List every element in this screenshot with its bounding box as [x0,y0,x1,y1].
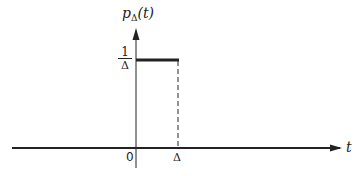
x-axis-label: t [346,140,352,154]
tick-origin-label: 0 [126,151,134,163]
p-axis-arrowhead-icon [133,28,140,40]
t-axis-arrowhead-icon [330,145,342,152]
y-axis-label: pΔ(t) [122,6,154,20]
rect-pulse-figure [0,0,360,176]
tick-delta-label: Δ [173,152,181,163]
level-label: 1 Δ [118,46,132,72]
